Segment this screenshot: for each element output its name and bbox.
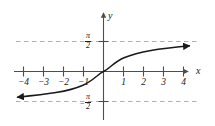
two-denominator: 2: [85, 42, 91, 50]
pi-numerator-lower: π: [85, 93, 91, 101]
x-tick-label-4: 4: [177, 78, 190, 88]
x-tick-label-1: 1: [117, 78, 130, 88]
x-tick-label-3: 3: [157, 78, 170, 88]
x-tick-label--2: −2: [57, 78, 70, 88]
y-tick-label-negative-pi-over-2: π 2: [85, 93, 91, 112]
two-denominator-lower: 2: [85, 103, 91, 111]
pi-numerator: π: [85, 32, 91, 40]
y-axis-label: y: [108, 11, 112, 21]
x-tick-label--4: −4: [17, 78, 30, 88]
x-axis-label: x: [196, 66, 200, 76]
y-tick-label-pi-over-2: π 2: [85, 32, 91, 51]
x-tick-label--3: −3: [37, 78, 50, 88]
x-tick-label-2: 2: [137, 78, 150, 88]
x-tick-label--1: −1: [77, 78, 90, 88]
negative-sign-lower: −: [80, 100, 85, 108]
arctangent-graph-figure: −4 −3 −2 −1 1 2 3 4 π 2 − π 2 x y: [0, 0, 215, 126]
